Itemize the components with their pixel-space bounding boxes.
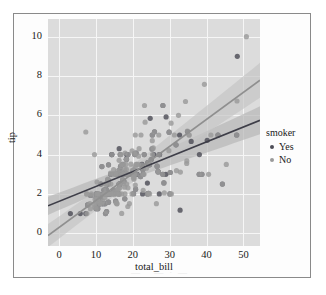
data-point <box>178 170 183 175</box>
data-point <box>149 146 154 151</box>
data-point <box>138 132 143 137</box>
data-point <box>142 152 147 157</box>
data-point <box>244 34 249 39</box>
data-point <box>134 150 139 155</box>
data-point <box>117 146 122 151</box>
data-point <box>84 211 89 216</box>
regression-overlay <box>48 19 260 246</box>
data-point <box>164 114 169 119</box>
data-point <box>106 162 111 167</box>
y-tick-label: 0 <box>16 226 42 237</box>
data-point <box>84 191 89 196</box>
legend-entry-no[interactable]: No <box>266 153 295 166</box>
data-point <box>143 120 148 125</box>
data-point <box>162 190 167 195</box>
data-point <box>128 162 133 167</box>
data-point <box>168 170 173 175</box>
data-point <box>68 211 73 216</box>
legend-entries: YesNo <box>266 140 295 166</box>
data-point <box>156 132 161 137</box>
data-point <box>129 191 134 196</box>
legend: smoker YesNo <box>266 127 295 166</box>
data-point <box>141 172 146 177</box>
data-point <box>108 172 113 177</box>
data-point <box>161 180 166 185</box>
data-point <box>125 152 130 157</box>
data-point <box>199 172 204 177</box>
data-point <box>189 139 194 144</box>
data-point <box>136 162 141 167</box>
data-point <box>142 103 147 108</box>
data-point <box>121 162 126 167</box>
data-point <box>83 129 88 134</box>
data-point <box>172 132 177 137</box>
x-tick-label: 30 <box>156 249 184 260</box>
data-point <box>167 130 172 135</box>
data-point <box>157 191 162 196</box>
legend-title: smoker <box>266 127 295 138</box>
x-tick-label: 10 <box>82 249 110 260</box>
x-tick-label: 50 <box>229 249 257 260</box>
data-point <box>94 206 99 211</box>
data-point <box>118 152 123 157</box>
data-point <box>124 157 129 162</box>
figure-frame: 010203040500246810 total_bill tip smoker… <box>13 13 311 278</box>
data-point <box>122 196 127 201</box>
data-point <box>208 132 213 137</box>
data-point <box>133 187 138 192</box>
data-point <box>156 169 161 174</box>
data-point <box>125 185 130 190</box>
data-point <box>202 82 207 87</box>
legend-entry-yes[interactable]: Yes <box>266 140 295 153</box>
data-point <box>148 116 153 121</box>
data-point <box>104 209 109 214</box>
data-point <box>141 188 146 193</box>
legend-label: Yes <box>279 142 294 152</box>
data-point <box>114 201 119 206</box>
legend-marker-icon <box>270 158 274 162</box>
data-point <box>154 201 159 206</box>
regression-line-no <box>48 80 260 235</box>
data-point <box>155 164 160 169</box>
y-tick-label: 10 <box>16 30 42 41</box>
data-point <box>150 152 155 157</box>
y-tick-label: 2 <box>16 187 42 198</box>
data-point <box>150 138 155 143</box>
data-point <box>119 191 124 196</box>
data-point <box>125 204 130 209</box>
data-point <box>169 121 174 126</box>
data-point <box>137 146 142 151</box>
data-point <box>184 158 189 163</box>
data-point <box>183 99 188 104</box>
data-point <box>124 167 129 172</box>
data-point <box>96 191 101 196</box>
data-point <box>147 191 152 196</box>
data-point <box>117 185 122 190</box>
data-point <box>197 152 202 157</box>
data-point <box>113 172 118 177</box>
x-tick-label: 0 <box>45 249 73 260</box>
y-tick-label: 4 <box>16 148 42 159</box>
data-point <box>117 167 122 172</box>
data-point <box>220 182 225 187</box>
data-point <box>145 181 150 186</box>
data-point <box>92 152 97 157</box>
data-point <box>160 172 165 177</box>
data-point <box>235 54 240 59</box>
legend-marker-icon <box>270 145 274 149</box>
data-point <box>119 211 124 216</box>
y-tick-label: 6 <box>16 108 42 119</box>
data-point <box>176 113 181 118</box>
x-tick-label: 40 <box>193 249 221 260</box>
x-tick-label: 20 <box>119 249 147 260</box>
y-axis-label: tip <box>6 132 17 143</box>
plot-area <box>48 19 260 246</box>
data-point <box>102 201 107 206</box>
data-point <box>152 129 157 134</box>
y-tick-label: 8 <box>16 69 42 80</box>
data-point <box>99 164 104 169</box>
data-point <box>206 172 211 177</box>
caption-artifact: — —·— <box>14 267 310 277</box>
data-point <box>109 152 114 157</box>
data-point <box>234 132 239 137</box>
